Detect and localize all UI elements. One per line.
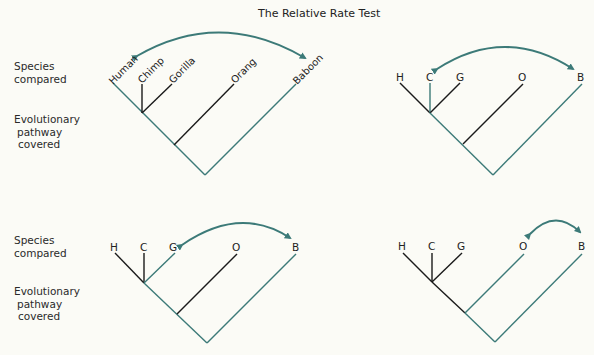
trunk-lower [465,313,495,342]
taxon-label: Gorilla [167,55,198,86]
branch-h [400,83,430,113]
taxon-label: C [426,71,433,83]
panel-4-tree [403,220,582,342]
branch-b [493,84,582,175]
trunk [430,113,493,175]
comparison-arrow [137,32,305,58]
branch-o [463,84,523,144]
panel-1-tree [113,32,305,175]
taxon-label: Human [107,53,140,86]
taxon-label: H [110,241,118,253]
trunk-upper [432,282,465,313]
taxon-label: H [396,71,404,83]
taxon-label: Chimp [136,55,167,86]
comparison-arrow [437,47,573,69]
branch-baboon [205,84,296,175]
comparison-arrow [530,220,580,234]
branch-g [430,83,460,113]
taxon-label: G [456,71,464,83]
relative-rate-diagram: Human Chimp Gorilla Orang Baboon H C G O… [0,0,594,355]
taxon-label: Baboon [291,52,326,87]
branch-gorilla [142,84,172,113]
taxon-label: G [169,241,177,253]
taxon-label: Orang [229,56,259,86]
taxon-label: B [578,240,585,252]
branch-g [144,253,175,283]
taxon-label: O [232,241,240,253]
branch-o [177,254,237,314]
branch-h [115,253,144,283]
branch-g [432,253,462,282]
branch-b [207,254,296,343]
taxon-label: C [428,240,435,252]
taxon-label: B [577,71,584,83]
taxon-label: B [292,241,299,253]
branch-h [403,253,432,282]
taxon-label: G [457,240,465,252]
panel-2-tree [400,47,582,175]
taxon-label: C [140,241,147,253]
branch-b [495,254,582,342]
branch-orang [174,84,234,145]
taxon-label: H [398,240,406,252]
taxon-label: O [519,240,527,252]
branch-o [465,254,524,313]
trunk [144,283,207,343]
taxon-label: O [518,71,526,83]
